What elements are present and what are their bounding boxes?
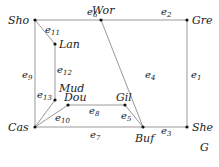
- edge-label-e4: e4: [145, 69, 155, 82]
- node-buf: [141, 125, 144, 128]
- edge-label-e13: e13: [37, 89, 52, 102]
- node-sho: [33, 18, 36, 21]
- graph-diagram: e1e2e3e4e5e6e7e8e9e10e11e12e13ShoWorGreL…: [0, 0, 219, 167]
- node-label-sho: Sho: [8, 14, 30, 27]
- node-label-buf: Buf: [134, 132, 156, 145]
- node-label-gil: Gil: [116, 91, 132, 104]
- node-label-dou: Dou: [63, 91, 87, 104]
- node-label-cas: Cas: [8, 121, 29, 134]
- edge-label-e8: e8: [89, 105, 100, 118]
- graph-name-label: G: [200, 141, 209, 154]
- edge-label-e7: e7: [90, 129, 101, 142]
- node-lan: [53, 42, 56, 45]
- node-wor: [99, 18, 102, 21]
- edge-label-e1: e1: [191, 69, 201, 82]
- node-cas: [33, 125, 36, 128]
- graph-canvas: e1e2e3e4e5e6e7e8e9e10e11e12e13ShoWorGreL…: [0, 0, 219, 167]
- edge-label-e2: e2: [161, 6, 172, 19]
- edge-e13: [35, 100, 55, 127]
- node-label-gre: Gre: [192, 14, 213, 27]
- edge-label-e10: e10: [55, 112, 70, 125]
- edge-label-e9: e9: [22, 69, 33, 82]
- node-mud: [53, 98, 56, 101]
- edge-label-e12: e12: [57, 64, 72, 77]
- node-label-wor: Wor: [92, 4, 115, 17]
- node-label-lan: Lan: [58, 38, 80, 51]
- node-she: [185, 125, 188, 128]
- node-label-she: She: [192, 121, 214, 134]
- node-gre: [185, 18, 188, 21]
